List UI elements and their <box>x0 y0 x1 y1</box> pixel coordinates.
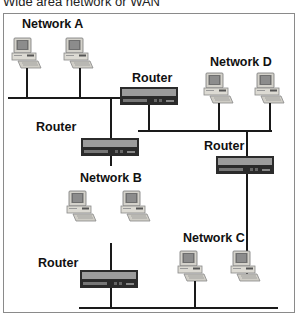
diagram-title: Wide area network or WAN <box>3 0 160 9</box>
connection-line <box>269 103 271 131</box>
connection-line <box>110 156 112 166</box>
connection-line <box>218 103 220 131</box>
computer-icon <box>9 37 43 71</box>
computer-icon <box>175 250 209 284</box>
network-a-bus <box>8 97 120 99</box>
router-icon <box>120 87 178 105</box>
connection-line <box>79 68 81 97</box>
router-1-label: Router <box>132 71 172 85</box>
network-d-label: Network D <box>210 55 272 69</box>
computer-icon <box>64 190 98 224</box>
computer-icon <box>201 72 235 106</box>
network-c-bus <box>79 307 278 309</box>
connection-line <box>148 105 150 131</box>
router-icon <box>216 156 274 174</box>
router-4-label: Router <box>38 256 78 270</box>
network-b-label: Network B <box>80 171 142 185</box>
router-3-label: Router <box>204 139 244 153</box>
computer-icon <box>61 37 95 71</box>
computer-icon <box>252 72 286 106</box>
router-icon <box>80 270 138 288</box>
network-a-label: Network A <box>22 17 83 31</box>
computer-icon <box>228 250 262 284</box>
router-2-label: Router <box>36 120 76 134</box>
computer-icon <box>118 190 152 224</box>
network-d-bus <box>138 130 272 132</box>
connection-line <box>26 68 28 97</box>
router-icon <box>81 138 139 156</box>
connection-line <box>194 281 196 308</box>
connection-line <box>110 97 112 139</box>
network-c-label: Network C <box>183 231 245 245</box>
